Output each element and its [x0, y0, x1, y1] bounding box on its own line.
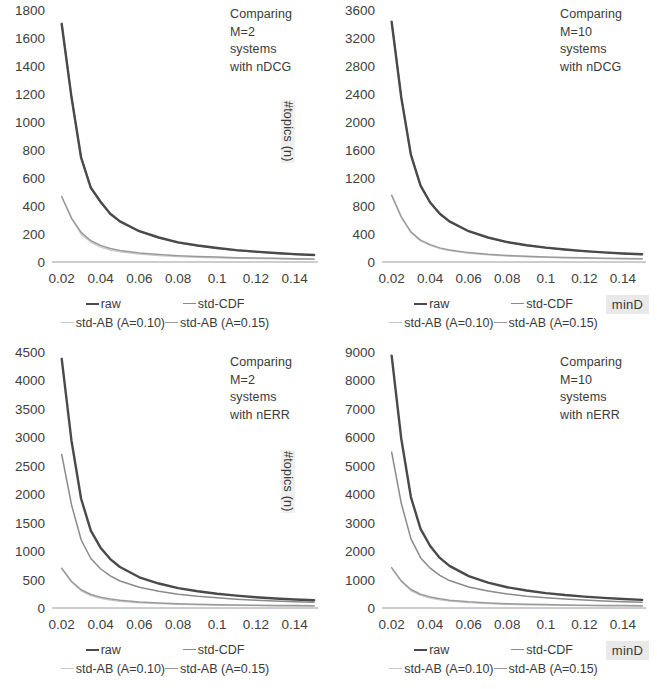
series-line [62, 454, 314, 602]
y-tick-label: 0 [37, 255, 45, 270]
legend-swatch-std-cdf-icon [183, 303, 196, 304]
legend-item-raw[interactable]: raw [86, 297, 121, 311]
x-tick-label: 0.1 [208, 617, 227, 632]
y-tick-label: 1600 [345, 143, 375, 158]
legend-item-std-ab-010[interactable]: std-AB (A=0.10) [389, 316, 493, 330]
legend-swatch-raw-icon [86, 649, 99, 651]
x-tick-label: 0.1 [208, 271, 227, 286]
legend-swatch-std-ab-015-icon [494, 322, 507, 323]
figure-grid: 0200400600800100012001400160018000.020.0… [0, 0, 657, 689]
x-tick-label: 0.12 [571, 271, 597, 286]
x-tick-label: 0.12 [571, 617, 597, 632]
legend-item-std-ab-015[interactable]: std-AB (A=0.15) [494, 662, 598, 676]
chart-panel-top-right: 040080012001600200024002800320036000.020… [330, 0, 657, 340]
x-tick-label: 0.08 [165, 271, 191, 286]
chart-panel-bottom-left: 0500100015002000250030003500400045000.02… [0, 340, 330, 689]
series-line [392, 196, 643, 260]
y-tick-label: 2800 [345, 59, 375, 74]
x-axis-title-top-right: minD [606, 295, 649, 314]
chart-caption-bottom-right: Comparing M=10 systems with nERR [560, 354, 622, 424]
legend-item-std-ab-010[interactable]: std-AB (A=0.10) [61, 316, 165, 330]
legend-label-std-cdf: std-CDF [526, 297, 573, 311]
x-tick-label: 0.06 [456, 271, 482, 286]
legend-swatch-std-ab-015-icon [165, 668, 178, 669]
y-tick-label: 1000 [15, 544, 45, 559]
legend-row-2: std-AB (A=0.10) std-AB (A=0.15) [330, 659, 657, 678]
chart-caption-bottom-left: Comparing M=2 systems with nERR [230, 354, 292, 424]
legend-label-std-cdf: std-CDF [526, 643, 573, 657]
legend-item-std-cdf[interactable]: std-CDF [511, 643, 573, 657]
legend-item-raw[interactable]: raw [414, 643, 449, 657]
y-tick-label: 800 [22, 143, 45, 158]
series-line [392, 568, 643, 606]
y-axis-title-top-left: #topics (n) [281, 100, 295, 163]
y-tick-label: 1500 [15, 516, 45, 531]
y-tick-label: 2000 [345, 115, 375, 130]
y-tick-label: 2000 [345, 544, 375, 559]
x-tick-label: 0.1 [536, 271, 555, 286]
legend-label-std-ab-015: std-AB (A=0.15) [509, 316, 598, 330]
legend-swatch-std-cdf-icon [511, 303, 524, 304]
series-line [62, 196, 314, 258]
x-tick-label: 0.02 [378, 617, 404, 632]
legend-swatch-std-ab-010-icon [61, 668, 74, 669]
series-line [392, 195, 643, 259]
y-tick-label: 7000 [345, 402, 375, 417]
y-tick-label: 3600 [345, 3, 375, 18]
x-tick-label: 0.1 [536, 617, 555, 632]
y-tick-label: 4500 [15, 345, 45, 360]
y-tick-label: 400 [22, 199, 45, 214]
y-tick-label: 1200 [15, 87, 45, 102]
legend-label-raw: raw [429, 297, 449, 311]
legend-label-std-ab-010: std-AB (A=0.10) [76, 316, 165, 330]
legend-swatch-std-ab-010-icon [389, 668, 402, 669]
x-tick-label: 0.02 [378, 271, 404, 286]
legend-item-std-ab-015[interactable]: std-AB (A=0.15) [494, 316, 598, 330]
x-tick-label: 0.08 [494, 271, 520, 286]
legend-item-std-ab-010[interactable]: std-AB (A=0.10) [389, 662, 493, 676]
y-tick-label: 0 [367, 255, 375, 270]
legend-item-std-cdf[interactable]: std-CDF [183, 643, 245, 657]
legend-row-1: raw std-CDF [0, 640, 330, 659]
y-tick-label: 2000 [15, 487, 45, 502]
y-tick-label: 400 [352, 227, 375, 242]
x-tick-label: 0.14 [610, 617, 637, 632]
y-tick-label: 6000 [345, 430, 375, 445]
legend-item-std-ab-015[interactable]: std-AB (A=0.15) [165, 662, 269, 676]
y-tick-label: 500 [22, 573, 45, 588]
chart-caption-top-left: Comparing M=2 systems with nDCG [230, 6, 292, 76]
legend-row-2: std-AB (A=0.10) std-AB (A=0.15) [0, 313, 330, 332]
y-tick-label: 1000 [345, 573, 375, 588]
legend-swatch-std-cdf-icon [183, 649, 196, 650]
legend-swatch-std-ab-010-icon [389, 322, 402, 323]
x-tick-label: 0.06 [126, 617, 152, 632]
legend-label-std-ab-015: std-AB (A=0.15) [509, 662, 598, 676]
legend-bottom-left: raw std-CDF std-AB (A=0.10) std-AB (A=0.… [0, 640, 330, 678]
y-tick-label: 3000 [15, 430, 45, 445]
legend-swatch-std-ab-015-icon [165, 322, 178, 323]
y-tick-label: 1000 [15, 115, 45, 130]
x-axis-title-bottom-right: minD [606, 641, 649, 660]
legend-label-std-ab-010: std-AB (A=0.10) [76, 662, 165, 676]
y-tick-label: 1600 [15, 31, 45, 46]
legend-item-std-ab-010[interactable]: std-AB (A=0.10) [61, 662, 165, 676]
chart-panel-bottom-right: 01000200030004000500060007000800090000.0… [330, 340, 657, 689]
legend-item-std-cdf[interactable]: std-CDF [183, 297, 245, 311]
y-tick-label: 2400 [345, 87, 375, 102]
y-tick-label: 2500 [15, 459, 45, 474]
legend-label-std-ab-015: std-AB (A=0.15) [180, 662, 269, 676]
legend-item-raw[interactable]: raw [86, 643, 121, 657]
legend-item-std-cdf[interactable]: std-CDF [511, 297, 573, 311]
legend-swatch-raw-icon [86, 303, 99, 305]
legend-label-raw: raw [429, 643, 449, 657]
legend-item-raw[interactable]: raw [414, 297, 449, 311]
x-tick-label: 0.04 [87, 271, 114, 286]
chart-panel-top-left: 0200400600800100012001400160018000.020.0… [0, 0, 330, 340]
x-tick-label: 0.06 [126, 271, 152, 286]
y-tick-label: 200 [22, 227, 45, 242]
legend-item-std-ab-015[interactable]: std-AB (A=0.15) [165, 316, 269, 330]
legend-label-std-ab-010: std-AB (A=0.10) [404, 662, 493, 676]
legend-row-1: raw std-CDF [0, 294, 330, 313]
y-tick-label: 5000 [345, 459, 375, 474]
x-tick-label: 0.12 [243, 617, 269, 632]
